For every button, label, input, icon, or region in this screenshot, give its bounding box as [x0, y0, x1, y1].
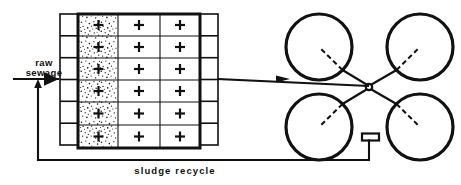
recycle-riser-arrowhead — [34, 79, 42, 88]
aeration-tank — [78, 14, 200, 148]
outlet-collection-channel — [200, 14, 218, 145]
raw-sewage-inlet-group: raw sewage — [14, 57, 62, 79]
diagram-canvas: raw sewage — [0, 0, 461, 185]
sludge-recycle-label: sludge recycle — [134, 165, 215, 176]
spoke-top-left-solid — [343, 70, 367, 85]
recycle-pump-valve-box — [362, 134, 379, 141]
spoke-bottom-left-solid — [343, 90, 367, 105]
tank-stippled-column — [80, 16, 117, 147]
raw-sewage-label-line2: sewage — [26, 67, 63, 78]
clarifier-feed-spokes — [320, 48, 419, 126]
spoke-bottom-right-solid — [372, 90, 397, 105]
spoke-top-left-dashed — [320, 48, 343, 70]
tank-to-clarifier-pipe — [218, 79, 368, 86]
spoke-bottom-right-dashed — [397, 104, 420, 126]
tank-clear-columns — [118, 16, 199, 147]
process-flow-diagram: raw sewage — [0, 0, 461, 185]
inlet-distribution-channel — [60, 14, 78, 145]
spoke-bottom-left-dashed — [320, 104, 343, 126]
spoke-top-right-dashed — [397, 48, 420, 70]
spoke-top-right-solid — [372, 70, 397, 85]
